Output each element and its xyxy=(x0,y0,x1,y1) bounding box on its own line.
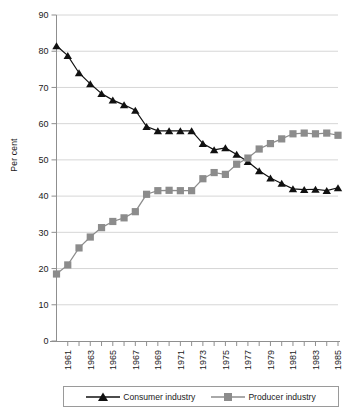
y-tick-label: 70 xyxy=(38,83,48,93)
square-marker xyxy=(98,224,105,231)
y-tick-label: 20 xyxy=(38,264,48,274)
square-marker xyxy=(334,132,341,139)
square-marker xyxy=(64,261,71,268)
square-marker xyxy=(312,130,319,137)
square-marker xyxy=(188,187,195,194)
x-tick-label: 1979 xyxy=(266,350,276,370)
x-tick-label: 1983 xyxy=(311,350,321,370)
square-marker-icon xyxy=(211,391,245,403)
y-tick-label: 60 xyxy=(38,119,48,129)
x-tick-label: 1965 xyxy=(108,350,118,370)
x-tick-label: 1961 xyxy=(63,350,73,370)
square-marker xyxy=(199,175,206,182)
triangle-marker xyxy=(278,180,286,187)
chart-legend: Consumer industry Producer industry xyxy=(63,386,339,407)
gridlines-group xyxy=(52,15,339,341)
y-tick-labels-group: 0102030405060708090 xyxy=(38,10,48,346)
square-marker xyxy=(109,218,116,225)
x-tick-labels-group: 1961196319651967196919711973197519771979… xyxy=(63,350,343,370)
line-chart-plot: 0102030405060708090 19611963196519671969… xyxy=(0,0,348,413)
square-marker xyxy=(132,208,139,215)
series-consumer-industry xyxy=(52,42,342,194)
triangle-marker xyxy=(131,107,139,114)
triangle-marker xyxy=(109,97,117,104)
square-marker xyxy=(154,187,161,194)
square-marker xyxy=(233,161,240,168)
square-marker xyxy=(211,169,218,176)
triangle-marker-icon xyxy=(86,391,120,403)
x-tick-label: 1977 xyxy=(243,350,253,370)
square-marker xyxy=(143,191,150,198)
x-tick-label: 1967 xyxy=(131,350,141,370)
triangle-marker xyxy=(52,42,60,49)
legend-label-producer-industry: Producer industry xyxy=(248,392,315,402)
x-tick-label: 1975 xyxy=(221,350,231,370)
x-tick-label: 1971 xyxy=(176,350,186,370)
x-tick-label: 1985 xyxy=(333,350,343,370)
square-marker xyxy=(166,187,173,194)
x-tick-label: 1963 xyxy=(86,350,96,370)
y-tick-label: 40 xyxy=(38,191,48,201)
y-tick-label: 50 xyxy=(38,155,48,165)
y-tick-label: 10 xyxy=(38,300,48,310)
triangle-marker xyxy=(232,151,240,158)
series-producer-industry xyxy=(53,129,342,277)
y-tick-label: 90 xyxy=(38,10,48,20)
y-tick-label: 80 xyxy=(38,46,48,56)
square-marker xyxy=(222,171,229,178)
square-marker xyxy=(244,154,251,161)
square-marker xyxy=(256,145,263,152)
square-marker xyxy=(278,135,285,142)
legend-item-consumer-industry: Consumer industry xyxy=(86,391,195,403)
legend-item-producer-industry: Producer industry xyxy=(211,391,315,403)
triangle-marker xyxy=(334,184,342,191)
square-marker xyxy=(177,187,184,194)
y-tick-label: 0 xyxy=(43,336,48,346)
square-marker xyxy=(75,244,82,251)
x-tick-label: 1981 xyxy=(288,350,298,370)
x-tick-label: 1973 xyxy=(198,350,208,370)
square-marker xyxy=(53,270,60,277)
square-marker xyxy=(267,140,274,147)
square-marker xyxy=(301,129,308,136)
axis-lines-group xyxy=(50,15,340,342)
x-tick-label: 1969 xyxy=(153,350,163,370)
square-marker xyxy=(87,233,94,240)
chart-figure: Per cent 0102030405060708090 19611963196… xyxy=(0,0,348,413)
square-marker xyxy=(289,130,296,137)
legend-label-consumer-industry: Consumer industry xyxy=(123,392,195,402)
square-marker xyxy=(120,214,127,221)
triangle-marker xyxy=(75,69,83,76)
y-tick-label: 30 xyxy=(38,228,48,238)
square-marker xyxy=(323,129,330,136)
triangle-marker xyxy=(120,101,128,108)
